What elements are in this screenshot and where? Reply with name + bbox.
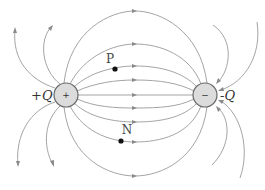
arrow-icon (13, 27, 17, 33)
arrow-icon (132, 106, 137, 110)
field-line-bottom-4 (77, 99, 194, 108)
point-p-dot (112, 66, 117, 71)
arrow-icon (132, 93, 137, 97)
point-n-dot (118, 138, 123, 143)
point-p-label: P (106, 52, 114, 66)
point-n: N (118, 123, 132, 144)
plus-sign-icon: + (62, 90, 70, 100)
field-line-pos-upper-far (15, 30, 55, 88)
arrow-icon (16, 161, 20, 167)
negative-charge: − (193, 83, 217, 107)
point-n-label: N (122, 123, 133, 137)
arrow-icon (132, 42, 137, 46)
field-line-neg-lower-near (212, 108, 227, 165)
field-line-bottom-3 (74, 103, 197, 122)
arrow-icon (216, 106, 221, 112)
minus-sign-icon: − (201, 90, 209, 100)
field-line-top-3 (74, 66, 197, 87)
positive-charge-label: +Q (31, 88, 53, 103)
arrow-icon (132, 174, 137, 178)
arrow-icon (132, 64, 137, 68)
field-line-pos-upper-near (44, 26, 60, 84)
arrow-icon (132, 120, 137, 124)
field-line-neg-upper-far (221, 22, 258, 90)
arrow-icon (50, 160, 54, 167)
field-line-pos-lower-far (18, 102, 55, 165)
arrow-icon (132, 140, 137, 144)
field-line-top-2 (70, 44, 201, 84)
field-line-bottom-2 (70, 106, 201, 142)
connecting-field-lines (64, 11, 207, 176)
negative-charge-label: -Q (220, 88, 235, 103)
field-line-top-outer (64, 11, 207, 83)
field-line-top-4 (77, 80, 194, 91)
field-arrows (132, 9, 137, 178)
field-line-pos-lower-near (46, 106, 60, 165)
dipole-field-diagram: + +Q − -Q P N (0, 0, 265, 190)
field-line-neg-lower-far (221, 101, 244, 178)
positive-charge: + (54, 83, 78, 107)
field-line-neg-upper-near (213, 25, 228, 82)
arrow-icon (132, 78, 137, 82)
arrow-icon (132, 9, 137, 13)
